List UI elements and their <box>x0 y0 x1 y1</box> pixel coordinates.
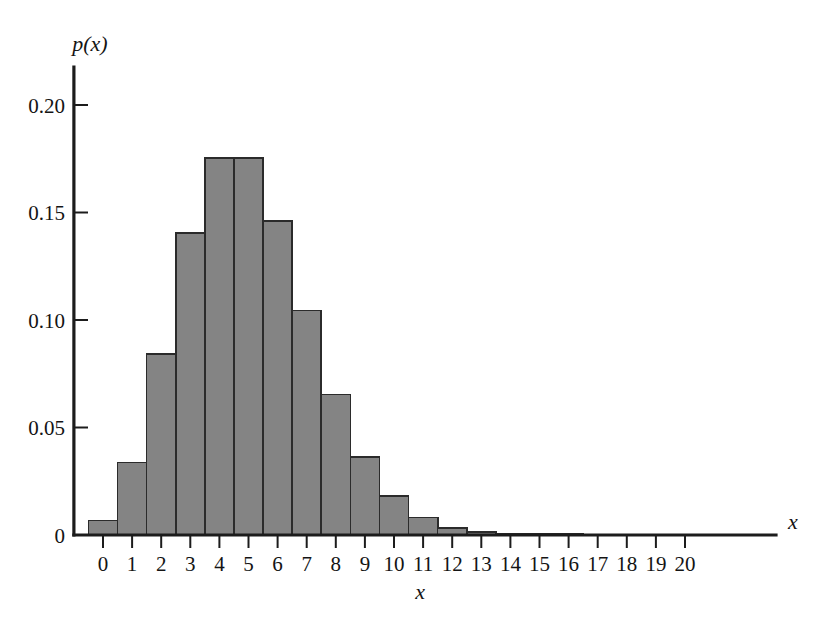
poisson-pmf-chart: 00.050.100.150.20 0123456789101112131415… <box>0 0 822 618</box>
x-tick-label: 20 <box>675 552 696 576</box>
y-tick-label: 0.20 <box>28 94 65 118</box>
x-tick-label: 1 <box>127 552 138 576</box>
histogram-bar <box>118 463 147 535</box>
x-tick-label: 17 <box>587 552 608 576</box>
x-tick-label: 3 <box>185 552 196 576</box>
x-tick-label: 8 <box>331 552 342 576</box>
x-axis-end-label: x <box>787 509 798 534</box>
x-tick-label: 12 <box>442 552 463 576</box>
histogram-bar <box>379 496 408 535</box>
histogram-bar <box>321 395 350 535</box>
histogram-bar <box>234 158 263 535</box>
x-tick-label: 14 <box>500 552 522 576</box>
x-tick-label: 5 <box>243 552 254 576</box>
y-tick-label: 0 <box>55 524 66 548</box>
histogram-figure: 00.050.100.150.20 0123456789101112131415… <box>0 0 822 618</box>
histogram-bar <box>350 457 379 535</box>
x-tick-label: 0 <box>98 552 109 576</box>
histogram-bar <box>205 158 234 535</box>
x-tick-label: 15 <box>529 552 550 576</box>
y-tick-label: 0.10 <box>28 309 65 333</box>
x-tick-label: 4 <box>214 552 225 576</box>
histogram-bar <box>409 517 438 535</box>
x-tick-label: 7 <box>301 552 312 576</box>
x-tick-label: 19 <box>645 552 666 576</box>
y-tick-label: 0.15 <box>28 201 65 225</box>
histogram-bar <box>147 354 176 535</box>
histogram-bar <box>292 311 321 535</box>
x-tick-label: 16 <box>558 552 579 576</box>
y-axis-label: p(x) <box>70 31 107 56</box>
x-axis-label: x <box>414 579 425 604</box>
x-tick-label: 6 <box>272 552 283 576</box>
histogram-bar <box>263 221 292 535</box>
y-tick-label: 0.05 <box>28 416 65 440</box>
x-tick-label: 13 <box>471 552 492 576</box>
histogram-bar <box>88 521 117 535</box>
x-tick-label: 18 <box>616 552 637 576</box>
x-tick-label: 9 <box>360 552 371 576</box>
x-tick-label: 11 <box>413 552 433 576</box>
x-tick-label: 2 <box>156 552 167 576</box>
histogram-bar <box>176 233 205 535</box>
x-tick-label: 10 <box>384 552 405 576</box>
